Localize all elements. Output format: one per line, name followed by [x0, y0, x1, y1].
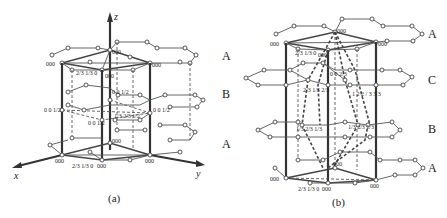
layer-label-a-mid: B — [222, 87, 230, 101]
layer-label-a-top: A — [222, 49, 231, 63]
caption-a: (a) — [108, 192, 121, 205]
y-axis-arrow-icon — [196, 160, 205, 167]
panel-b-top-layer — [274, 17, 424, 52]
coord-label: 000 — [270, 41, 279, 47]
y-axis — [150, 155, 200, 164]
coord-label: 000 — [112, 138, 121, 144]
layer-label-b-b: B — [428, 122, 436, 136]
panel-b-bottom-layer — [273, 158, 425, 185]
layer-label-b-c: C — [428, 73, 436, 87]
coord-label: 0 0 1/2 — [112, 89, 129, 95]
x-axis-label: x — [13, 170, 19, 181]
coord-label: 000 — [322, 186, 331, 192]
coord-label: 000 — [333, 161, 342, 167]
coord-label: 000 — [370, 183, 379, 189]
coord-label: 000 — [152, 62, 161, 68]
layer-label-b-a-bottom: A — [428, 161, 437, 175]
coord-label: 0 0 1/2 — [153, 107, 170, 113]
coord-label: 000 — [145, 158, 154, 164]
z-axis-label: z — [113, 11, 118, 22]
x-axis-arrow-icon — [12, 162, 22, 168]
coord-fraction-label: 2/3 1/3 0 — [295, 50, 316, 56]
coord-label: 000 — [337, 28, 346, 34]
coord-label: 2/3 1/3 2/3 — [303, 87, 329, 93]
z-axis-arrow-icon — [107, 12, 113, 22]
panel-a-top-layer — [50, 40, 198, 72]
coord-fraction-label: 2/3 1/3 0 — [72, 163, 93, 169]
y-axis-label: y — [195, 168, 201, 179]
coord-label: 000 — [105, 73, 114, 79]
coord-label: 0 0 1/2 — [44, 107, 61, 113]
coord-label: 1/3 2/3 1/3 — [296, 126, 322, 132]
panel-b: 000 000 000 000 2/3 1/3 0 0 0 2/3 2/3 1/… — [244, 17, 437, 209]
coord-label: 000 — [112, 49, 121, 55]
coord-label: 000 — [55, 158, 64, 164]
coord-fraction-label: 2/3 1/3 0 — [298, 186, 319, 192]
coord-label: 000 — [378, 41, 387, 47]
panel-a: z x y — [12, 11, 231, 205]
layer-label-b-a-top: A — [428, 27, 437, 41]
coord-fraction-label: 1/3 2/3 1/2 — [114, 113, 140, 119]
coord-label: 000 — [97, 163, 106, 169]
coord-label: 0 0 1/2 — [88, 120, 105, 126]
coord-label: 1/3 2/3 1/3 — [348, 124, 374, 130]
coord-label: 1 2 2 / 3 3 3 — [352, 91, 381, 97]
coord-label: 0 0 2/3 — [330, 71, 347, 77]
coord-label: 000 — [270, 176, 279, 182]
crystal-structure-figure: z x y — [0, 0, 447, 218]
layer-label-a-bottom: A — [222, 137, 231, 151]
coord-label: 000 — [46, 61, 55, 67]
coord-label: 000 — [318, 52, 327, 58]
caption-b: (b) — [332, 196, 345, 209]
coord-fraction-label: 2/3 1/3 0 — [76, 70, 97, 76]
